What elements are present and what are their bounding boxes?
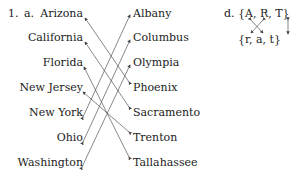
part-d-arrows bbox=[0, 0, 303, 178]
